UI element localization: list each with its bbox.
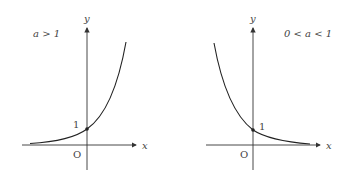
origin-label: O (73, 149, 81, 160)
intercept-point (251, 128, 255, 132)
panel-a-greater-than-1: 1 O y x a > 1 (22, 13, 148, 170)
x-axis-label: x (142, 140, 148, 151)
panel-a-between-0-and-1: 1 O y x 0 < a < 1 (206, 13, 332, 170)
y-axis-label: y (249, 13, 256, 24)
condition-label: a > 1 (33, 28, 60, 39)
intercept-point (85, 127, 89, 131)
y-axis-label: y (83, 13, 90, 24)
intercept-label: 1 (259, 121, 265, 132)
x-axis-label: x (326, 140, 332, 151)
condition-label: 0 < a < 1 (284, 28, 332, 39)
exponential-graphs-diagram: 1 O y x a > 1 1 O y x 0 < a < 1 (0, 0, 348, 180)
origin-label: O (240, 149, 248, 160)
intercept-label: 1 (73, 119, 79, 130)
